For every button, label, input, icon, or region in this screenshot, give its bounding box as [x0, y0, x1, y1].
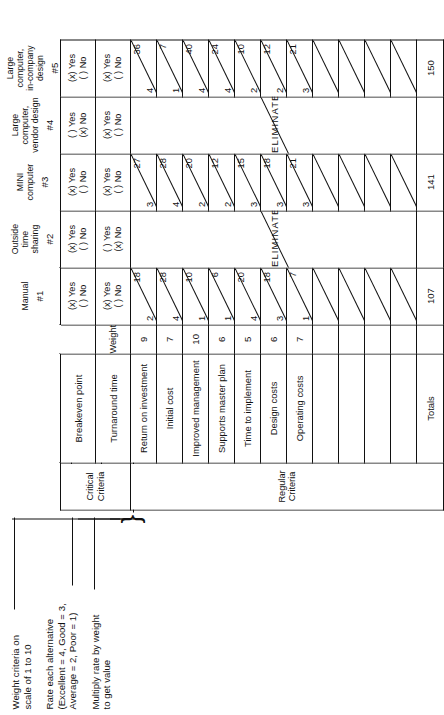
value-alt-5-row-2[interactable]: 7	[157, 44, 168, 49]
score-cell-alt-3-row-1[interactable]: 327	[131, 153, 157, 210]
weight-value-time-to-implement[interactable]: 5	[235, 324, 261, 353]
value-alt-5-row-1[interactable]: 36	[131, 44, 142, 54]
score-cell-alt-5-row-10[interactable]	[365, 39, 391, 96]
rate-alt-5-row-1[interactable]: 4	[144, 87, 155, 92]
critical-answer-breakeven-alt-4[interactable]: ( ) Yes (x) No	[61, 96, 96, 153]
score-cell-alt-5-row-4[interactable]: 424	[209, 39, 235, 96]
critical-answer-turnaround-alt-4-yes[interactable]: (x) Yes	[102, 97, 113, 153]
weight-value-supports-master-plan[interactable]: 6	[209, 324, 235, 353]
rate-alt-3-row-1[interactable]: 3	[144, 201, 155, 206]
score-cell-alt-1-row-6[interactable]: 318	[261, 267, 287, 324]
value-alt-1-row-6[interactable]: 18	[261, 272, 272, 282]
rate-alt-5-row-3[interactable]: 4	[196, 87, 207, 92]
value-alt-5-row-7[interactable]: 21	[287, 44, 298, 54]
score-cell-alt-1-row-11[interactable]	[391, 267, 417, 324]
criterion-label-blank-3[interactable]	[365, 354, 391, 463]
weight-value-blank-4[interactable]	[391, 324, 417, 353]
score-cell-alt-3-row-8[interactable]	[313, 153, 339, 210]
critical-answer-breakeven-alt-5-yes[interactable]: (x) Yes	[67, 40, 78, 96]
critical-answer-turnaround-alt-2-yes[interactable]: ( ) Yes	[102, 211, 113, 267]
value-alt-1-row-1[interactable]: 18	[131, 272, 142, 282]
rate-alt-1-row-3[interactable]: 1	[196, 315, 207, 320]
value-alt-5-row-6[interactable]: 12	[261, 44, 272, 54]
critical-answer-breakeven-alt-1-yes[interactable]: (x) Yes	[67, 268, 78, 324]
value-alt-1-row-3[interactable]: 10	[183, 272, 194, 282]
score-cell-alt-3-row-11[interactable]	[391, 153, 417, 210]
weight-value-return-on-investment[interactable]: 9	[131, 324, 157, 353]
critical-answer-turnaround-alt-5-no[interactable]: ( ) No	[113, 40, 124, 96]
critical-answer-turnaround-alt-1-yes[interactable]: (x) Yes	[102, 268, 113, 324]
score-cell-alt-1-row-8[interactable]	[313, 267, 339, 324]
critical-answer-turnaround-alt-5[interactable]: (x) Yes ( ) No	[96, 39, 131, 96]
score-cell-alt-3-row-9[interactable]	[339, 153, 365, 210]
score-cell-alt-5-row-8[interactable]	[313, 39, 339, 96]
rate-alt-5-row-7[interactable]: 3	[300, 87, 311, 92]
critical-answer-breakeven-alt-3[interactable]: (x) Yes ( ) No	[61, 153, 96, 210]
rate-alt-3-row-4[interactable]: 2	[222, 201, 233, 206]
critical-answer-breakeven-alt-1[interactable]: (x) Yes ( ) No	[61, 267, 96, 324]
rate-alt-3-row-5[interactable]: 3	[248, 201, 259, 206]
score-cell-alt-5-row-1[interactable]: 436	[131, 39, 157, 96]
rate-alt-3-row-2[interactable]: 4	[170, 201, 181, 206]
weight-value-blank-2[interactable]	[339, 324, 365, 353]
score-cell-alt-3-row-3[interactable]: 220	[183, 153, 209, 210]
value-alt-1-row-2[interactable]: 28	[157, 272, 168, 282]
rate-alt-5-row-5[interactable]: 2	[248, 87, 259, 92]
critical-answer-breakeven-alt-2[interactable]: (x) Yes ( ) No	[61, 210, 96, 267]
value-alt-5-row-3[interactable]: 40	[183, 44, 194, 54]
score-cell-alt-3-row-2[interactable]: 428	[157, 153, 183, 210]
critical-answer-breakeven-alt-5-no[interactable]: ( ) No	[78, 40, 89, 96]
weight-value-operating-costs[interactable]: 7	[287, 324, 313, 353]
critical-answer-turnaround-alt-4-no[interactable]: ( ) No	[113, 97, 124, 153]
score-cell-alt-5-row-6[interactable]: 212	[261, 39, 287, 96]
value-alt-1-row-4[interactable]: 6	[209, 272, 220, 277]
score-cell-alt-1-row-9[interactable]	[339, 267, 365, 324]
score-cell-alt-5-row-11[interactable]	[391, 39, 417, 96]
critical-answer-breakeven-alt-2-no[interactable]: ( ) No	[78, 211, 89, 267]
score-cell-alt-1-row-1[interactable]: 218	[131, 267, 157, 324]
weight-value-blank-3[interactable]	[365, 324, 391, 353]
critical-answer-turnaround-alt-1-no[interactable]: ( ) No	[113, 268, 124, 324]
critical-answer-breakeven-alt-5[interactable]: (x) Yes ( ) No	[61, 39, 96, 96]
weight-value-initial-cost[interactable]: 7	[157, 324, 183, 353]
critical-answer-breakeven-alt-4-no[interactable]: (x) No	[78, 97, 89, 153]
critical-answer-turnaround-alt-3[interactable]: (x) Yes ( ) No	[96, 153, 131, 210]
critical-answer-breakeven-alt-1-no[interactable]: ( ) No	[78, 268, 89, 324]
rate-alt-5-row-6[interactable]: 2	[274, 87, 285, 92]
rate-alt-5-row-4[interactable]: 4	[222, 87, 233, 92]
value-alt-1-row-5[interactable]: 20	[235, 272, 246, 282]
value-alt-5-row-5[interactable]: 10	[235, 44, 246, 54]
score-cell-alt-5-row-3[interactable]: 440	[183, 39, 209, 96]
critical-answer-turnaround-alt-3-yes[interactable]: (x) Yes	[102, 154, 113, 210]
rate-alt-1-row-5[interactable]: 4	[248, 315, 259, 320]
score-cell-alt-1-row-4[interactable]: 16	[209, 267, 235, 324]
score-cell-alt-5-row-7[interactable]: 321	[287, 39, 313, 96]
critical-answer-breakeven-alt-3-no[interactable]: ( ) No	[78, 154, 89, 210]
value-alt-1-row-7[interactable]: 7	[287, 272, 298, 277]
rate-alt-3-row-7[interactable]: 3	[300, 201, 311, 206]
score-cell-alt-1-row-5[interactable]: 420	[235, 267, 261, 324]
criterion-label-blank-4[interactable]	[391, 354, 417, 463]
critical-answer-turnaround-alt-3-no[interactable]: ( ) No	[113, 154, 124, 210]
rate-alt-5-row-2[interactable]: 1	[170, 87, 181, 92]
score-cell-alt-1-row-7[interactable]: 17	[287, 267, 313, 324]
rate-alt-1-row-7[interactable]: 1	[300, 315, 311, 320]
score-cell-alt-1-row-10[interactable]	[365, 267, 391, 324]
value-alt-3-row-7[interactable]: 21	[287, 158, 298, 168]
rate-alt-1-row-4[interactable]: 1	[222, 315, 233, 320]
score-cell-alt-5-row-9[interactable]	[339, 39, 365, 96]
critical-answer-breakeven-alt-4-yes[interactable]: ( ) Yes	[67, 97, 78, 153]
score-cell-alt-3-row-6[interactable]: 318	[261, 153, 287, 210]
critical-answer-turnaround-alt-5-yes[interactable]: (x) Yes	[102, 40, 113, 96]
value-alt-3-row-5[interactable]: 15	[235, 158, 246, 168]
score-cell-alt-3-row-5[interactable]: 315	[235, 153, 261, 210]
value-alt-5-row-4[interactable]: 24	[209, 44, 220, 54]
rate-alt-1-row-1[interactable]: 2	[144, 315, 155, 320]
weight-value-blank-1[interactable]	[313, 324, 339, 353]
score-cell-alt-5-row-2[interactable]: 17	[157, 39, 183, 96]
value-alt-3-row-3[interactable]: 20	[183, 158, 194, 168]
score-cell-alt-1-row-3[interactable]: 110	[183, 267, 209, 324]
criterion-label-blank-2[interactable]	[339, 354, 365, 463]
rate-alt-1-row-2[interactable]: 4	[170, 315, 181, 320]
criterion-label-blank-1[interactable]	[313, 354, 339, 463]
